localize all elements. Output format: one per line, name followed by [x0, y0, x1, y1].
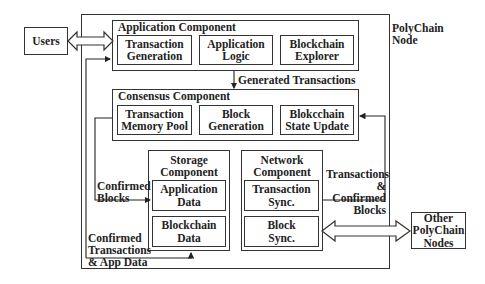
users-app-double-arrow: [68, 32, 113, 50]
network-othernodes-double-arrow: [322, 221, 410, 241]
connectors: [0, 0, 485, 284]
